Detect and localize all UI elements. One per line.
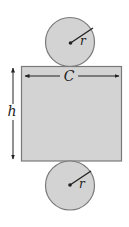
lateral-rectangle: C xyxy=(22,67,122,162)
top-circle: r xyxy=(46,18,95,67)
top-center-dot xyxy=(69,41,73,45)
bottom-center-dot xyxy=(68,183,72,187)
circumference-label: C xyxy=(64,68,75,84)
cylinder-net-diagram: r C h r xyxy=(0,0,129,227)
bottom-circle: r xyxy=(46,161,95,210)
height-dimension: h xyxy=(7,68,16,159)
height-label: h xyxy=(7,103,16,119)
